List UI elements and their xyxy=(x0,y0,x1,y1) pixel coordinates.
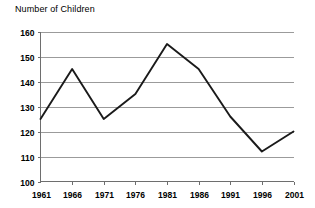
y-tick-label-120: 120 xyxy=(20,128,34,138)
y-tick-label-100: 100 xyxy=(20,178,34,188)
series-line-number-of-children xyxy=(41,44,294,152)
y-tick-label-110: 110 xyxy=(21,153,35,163)
x-tick-label-1976: 1976 xyxy=(126,190,145,200)
y-axis: 100110120130140150160 xyxy=(20,28,40,188)
x-tick-label-1996: 1996 xyxy=(253,190,272,200)
x-tick-label-1991: 1991 xyxy=(221,190,240,200)
x-tick-label-1981: 1981 xyxy=(158,190,177,200)
y-tick-label-150: 150 xyxy=(20,53,34,63)
x-tick-label-1961: 1961 xyxy=(32,190,51,200)
y-tick-label-130: 130 xyxy=(20,103,34,113)
data-series xyxy=(41,44,294,152)
y-tick-label-140: 140 xyxy=(20,78,34,88)
x-tick-label-1971: 1971 xyxy=(95,190,114,200)
x-axis: 196119661971197619811986199119962001 xyxy=(32,182,304,200)
gridlines xyxy=(41,33,294,158)
chart-plot-area: 100110120130140150160 196119661971197619… xyxy=(0,0,315,208)
x-tick-label-1986: 1986 xyxy=(190,190,209,200)
x-tick-label-2001: 2001 xyxy=(285,190,304,200)
x-tick-label-1966: 1966 xyxy=(63,190,82,200)
line-chart: Number of Children 100110120130140150160… xyxy=(0,0,315,208)
y-tick-label-160: 160 xyxy=(20,28,34,38)
